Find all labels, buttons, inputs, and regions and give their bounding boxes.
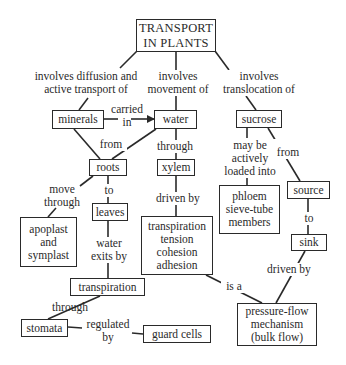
link-diffusion-minerals	[79, 98, 88, 110]
node-stomata: stomata	[21, 319, 68, 337]
label-through-stomata: through	[47, 301, 93, 314]
node-sink: sink	[291, 234, 327, 251]
link-translocation-sucrose	[246, 96, 256, 110]
label-through-xylem: through	[151, 140, 199, 153]
label-to-sink: to	[301, 212, 317, 225]
label-regulated-by: regulated by	[80, 318, 136, 344]
link-title-translocation	[215, 51, 229, 70]
node-leaves: leaves	[92, 203, 128, 221]
label-carried-in: carried in	[107, 103, 147, 129]
node-transpiration-tension-cohesion-adhesion: transpiration tension cohesion adhesion	[141, 216, 213, 275]
label-move-through: move through	[38, 183, 86, 209]
node-xylem: xylem	[157, 159, 195, 176]
node-transport-in-plants: TRANSPORT IN PLANTS	[136, 19, 216, 52]
node-roots: roots	[89, 159, 127, 176]
label-involves-diffusion: involves diffusion and active transport …	[26, 70, 146, 96]
concept-map: involves diffusion and active transport …	[0, 0, 346, 365]
link-title-diffusion	[120, 51, 137, 68]
label-involves-translocation: involves translocation of	[212, 70, 306, 96]
node-water: water	[154, 110, 197, 129]
link-sink-pressure	[276, 251, 305, 303]
label-from-source: from	[273, 146, 303, 159]
label-driven-by-xylem: driven by	[148, 192, 208, 205]
link-move-apoplast	[48, 208, 56, 217]
node-source: source	[287, 181, 330, 199]
label-water-exits-by: water exits by	[83, 237, 135, 263]
label-is-a: is a	[221, 280, 247, 293]
label-to-leaves: to	[101, 184, 117, 197]
label-involves-movement: involves movement of	[144, 70, 212, 96]
node-apoplast-and-symplast: apoplast and symplast	[20, 217, 77, 267]
label-from-roots: from	[95, 138, 127, 151]
node-sucrose: sucrose	[236, 110, 282, 128]
node-minerals: minerals	[52, 110, 104, 129]
node-pressure-flow-mechanism: pressure-flow mechanism (bulk flow)	[237, 303, 317, 346]
label-driven-by-sink: driven by	[260, 263, 318, 276]
node-transpiration: transpiration	[70, 278, 145, 296]
node-guard-cells: guard cells	[143, 325, 211, 343]
node-phloem-sieve-tube-members: phloem sieve-tube members	[219, 185, 280, 234]
